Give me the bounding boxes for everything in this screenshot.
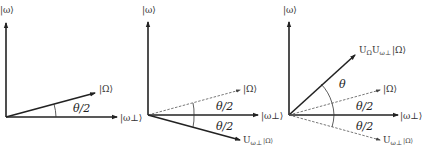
- y-axis-label: |ω⟩: [142, 5, 156, 16]
- angle-arc-lower: [193, 115, 194, 127]
- angle-arc-upper: [332, 103, 334, 115]
- angle-label-upper: θ/2: [216, 100, 233, 113]
- angle-label-upper: θ/2: [356, 100, 373, 113]
- angle-label-lower: θ/2: [216, 120, 233, 133]
- angle-arc-theta: [321, 84, 332, 103]
- x-axis-label: |ω⊥⟩: [120, 113, 142, 124]
- panel-3: |ω⟩ |ω⊥⟩ |Ω⟩ θ θ/2 θ/2 UΩUω⊥|Ω⟩ Uω⊥|Ω⟩: [283, 5, 422, 147]
- angle-label-theta: θ: [339, 78, 346, 91]
- panel-2: |ω⟩ |ω⊥⟩ |Ω⟩ θ/2 θ/2 Uω⊥|Ω⟩: [142, 5, 283, 147]
- state-label: |Ω⟩: [99, 84, 113, 95]
- rotated-state-label: UΩUω⊥|Ω⟩: [359, 45, 406, 57]
- angle-arc-lower: [332, 115, 334, 127]
- x-axis-label: |ω⊥⟩: [261, 111, 283, 122]
- reflected-state-label: Uω⊥|Ω⟩: [383, 135, 413, 147]
- state-label: |Ω⟩: [243, 84, 257, 95]
- angle-arc: [54, 104, 56, 117]
- x-axis-label: |ω⊥⟩: [400, 111, 422, 122]
- angle-arc-upper: [193, 103, 194, 115]
- state-label: |Ω⟩: [383, 84, 397, 95]
- panel-1: |ω⟩ |ω⊥⟩ |Ω⟩ θ/2: [0, 5, 142, 124]
- y-axis-label: |ω⟩: [0, 5, 14, 16]
- y-axis-label: |ω⟩: [283, 5, 297, 16]
- angle-label: θ/2: [73, 102, 90, 115]
- grover-rotation-diagram: |ω⟩ |ω⊥⟩ |Ω⟩ θ/2 |ω⟩ |ω⊥⟩ |Ω⟩ θ/2 θ/2 Uω…: [0, 0, 422, 147]
- reflected-state-label: Uω⊥|Ω⟩: [243, 135, 273, 147]
- angle-label-lower: θ/2: [356, 120, 373, 133]
